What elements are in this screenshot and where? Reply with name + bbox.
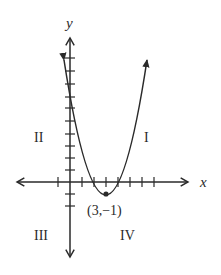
quadrant-label-II: II <box>34 130 44 145</box>
coordinate-plane: y x I II III IV (3,−1) <box>0 0 221 275</box>
y-axis-label: y <box>64 15 73 31</box>
vertex-point <box>103 191 108 196</box>
parabola-curve <box>64 60 147 195</box>
x-axis-label: x <box>199 174 207 190</box>
vertex-label: (3,−1) <box>87 203 122 219</box>
quadrant-label-I: I <box>144 130 149 145</box>
quadrant-label-IV: IV <box>120 228 135 243</box>
quadrant-label-III: III <box>34 228 48 243</box>
